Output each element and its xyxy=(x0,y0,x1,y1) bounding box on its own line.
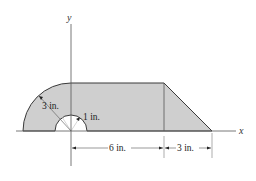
composite-area-diagram: x y 3 in. 1 in. 6 in. 3 in. xyxy=(0,0,256,181)
y-axis-label: y xyxy=(66,12,72,23)
dim-3in-arrow-left xyxy=(165,147,169,150)
dim-6in-arrow-right xyxy=(159,147,163,150)
triangle-width-label: 3 in. xyxy=(177,143,194,153)
dim-3in-arrow-right xyxy=(207,147,211,150)
rect-width-label: 6 in. xyxy=(109,143,126,153)
x-axis-label: x xyxy=(238,125,244,136)
inner-radius-label: 1 in. xyxy=(83,112,100,122)
dim-6in-arrow-left xyxy=(72,147,76,150)
outer-radius-label: 3 in. xyxy=(42,101,59,111)
